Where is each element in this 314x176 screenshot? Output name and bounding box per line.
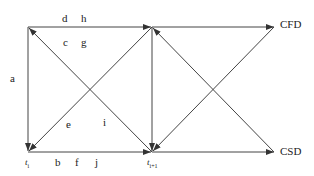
diagram-arrows [0, 0, 314, 176]
label-i: i [103, 117, 106, 128]
label-j: j [95, 157, 98, 168]
label-g: g [81, 37, 87, 48]
cfd-node-label: CFD [280, 19, 301, 30]
label-e: e [66, 119, 71, 130]
coupling-diagram: CFD CSD ti ti+1 a b c d e f g h i j [0, 0, 314, 176]
label-d: d [62, 13, 68, 24]
label-h: h [81, 13, 87, 24]
time-step-ti-label: ti [25, 158, 29, 171]
label-c: c [63, 37, 68, 48]
time-step-ti1-label: ti+1 [147, 158, 158, 171]
label-f: f [75, 157, 79, 168]
csd-node-label: CSD [280, 146, 301, 157]
label-b: b [55, 157, 61, 168]
label-a: a [10, 73, 15, 84]
